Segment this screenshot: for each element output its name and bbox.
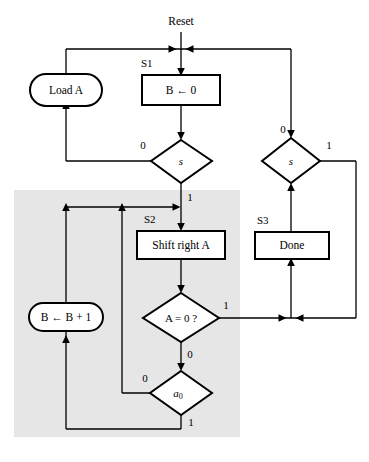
node-shift-right-a-label: Shift right A — [152, 239, 210, 252]
flowchart-canvas: Load A B ← 0 S1 s s Shift right A S2 Don… — [0, 0, 369, 462]
edge-label-s-right-zero: 0 — [280, 123, 286, 135]
node-b-clear-label: B ← 0 — [166, 84, 197, 96]
edge-label-a0-one: 1 — [188, 416, 194, 428]
edge-label-a-is-zero-zero: 0 — [187, 348, 193, 360]
edge-label-s-left-one: 1 — [187, 191, 193, 203]
edge-label-a-is-zero-one: 1 — [223, 299, 229, 311]
arrowhead-azero-one-merge — [279, 314, 287, 321]
node-b-increment-label: B ← B + 1 — [41, 311, 92, 323]
edge-label-a0-zero: 0 — [142, 372, 148, 384]
node-load-a-label: Load A — [49, 84, 84, 96]
reset-label: Reset — [168, 15, 194, 27]
node-done-label: Done — [280, 239, 305, 251]
edge-label-s-right-one: 1 — [326, 139, 332, 151]
arrowhead-top-bus-from-left — [169, 45, 177, 52]
node-a-is-zero-label: A = 0 ? — [165, 312, 197, 324]
node-s-right-label: s — [289, 155, 293, 167]
node-a0-label-sub: 0 — [179, 392, 183, 401]
arrowhead-sright-one-merge — [296, 314, 304, 321]
node-s-left-label: s — [179, 155, 183, 167]
edge-label-s-left-zero: 0 — [140, 139, 146, 151]
state-label-s1: S1 — [141, 57, 153, 69]
state-label-s2: S2 — [144, 213, 156, 225]
asm-flowchart-diagram: Load A B ← 0 S1 s s Shift right A S2 Don… — [0, 0, 369, 462]
state-label-s3: S3 — [257, 214, 269, 226]
arrowhead-top-bus-from-right — [186, 45, 194, 52]
